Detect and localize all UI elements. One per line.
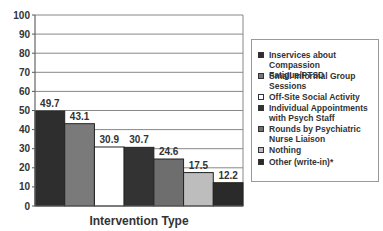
bar: [94, 147, 124, 206]
y-tick-label: 100: [13, 10, 30, 21]
legend-label: Individual Appointments with Psych Staff: [269, 103, 368, 123]
y-tick-label: 30: [19, 143, 31, 154]
bar-value-label: 24.6: [159, 146, 179, 157]
legend-swatch-icon: [258, 94, 264, 100]
legend-swatch-icon: [258, 105, 264, 111]
y-tick-label: 60: [19, 86, 31, 97]
y-tick-label: 40: [19, 124, 31, 135]
bar: [213, 183, 243, 206]
bar-value-label: 30.7: [129, 134, 149, 145]
y-tick-label: 50: [19, 105, 31, 116]
legend-label: Off-Site Social Activity: [269, 92, 360, 102]
y-tick-label: 0: [24, 201, 30, 212]
bar: [154, 159, 184, 206]
legend-swatch-icon: [258, 159, 264, 165]
legend-swatch-icon: [258, 73, 264, 79]
y-tick-label: 20: [19, 162, 31, 173]
y-tick-label: 10: [19, 181, 31, 192]
legend-swatch-icon: [258, 147, 264, 153]
legend-swatch-icon: [258, 126, 264, 132]
bar: [35, 111, 65, 206]
legend-label: Small Informal Group Sessions: [269, 71, 355, 91]
legend: Inservices about Compassion Fatigue/PTSD…: [251, 39, 379, 182]
y-tick-label: 90: [19, 29, 31, 40]
bar-value-label: 12.2: [218, 170, 238, 181]
y-tick-label: 70: [19, 67, 31, 78]
legend-swatch-icon: [258, 52, 264, 58]
bar: [184, 173, 214, 206]
legend-label: Nothing: [269, 145, 301, 155]
bars: 49.743.130.930.724.617.512.2: [35, 98, 243, 206]
bar: [124, 147, 154, 206]
bar-value-label: 49.7: [40, 98, 60, 109]
bar-value-label: 30.9: [100, 134, 120, 145]
bar-value-label: 43.1: [70, 111, 90, 122]
y-tick-label: 80: [19, 48, 31, 59]
bar-value-label: 17.5: [189, 160, 209, 171]
bar: [65, 124, 95, 206]
x-axis-label: Intervention Type: [89, 214, 188, 228]
legend-label: Other (write-in)*: [269, 157, 333, 167]
legend-label: Rounds by Psychiatric Nurse Liaison: [269, 124, 361, 144]
